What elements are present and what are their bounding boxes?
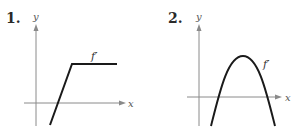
x-axis-arrow-1: [119, 101, 126, 106]
x-axis-arrow-2: [275, 95, 282, 100]
x-axis-label-1: x: [128, 98, 134, 109]
problem-number-2: 2.: [168, 10, 183, 26]
graph-1: 1. y x f′: [6, 10, 134, 126]
x-axis-label-2: x: [285, 92, 291, 103]
y-axis-label-1: y: [32, 11, 39, 22]
problem-number-1: 1.: [6, 10, 21, 26]
y-axis-arrow-2: [197, 24, 202, 31]
graph-2: 2. y x f′: [168, 10, 291, 126]
y-axis-label-2: y: [195, 11, 202, 22]
y-axis-arrow-1: [34, 24, 39, 31]
f-prime-curve-1: [50, 64, 117, 125]
curve-label-2: f′: [262, 58, 270, 71]
figure: 1. y x f′ 2. y x f′: [0, 0, 307, 135]
curve-label-1: f′: [90, 50, 98, 63]
